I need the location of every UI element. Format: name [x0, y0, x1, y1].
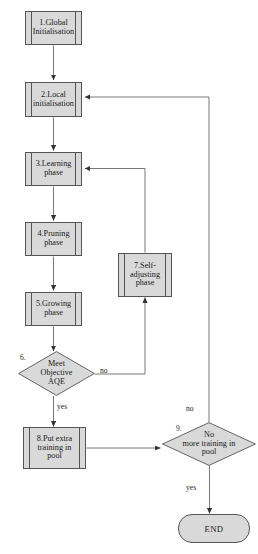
node-label: 8.Put extra training in pool — [31, 435, 78, 462]
node-label: 2.Local initialisation — [27, 91, 80, 109]
node-label: END — [205, 524, 224, 534]
node-learning-phase[interactable]: 3.Learning phase — [25, 152, 82, 186]
node-end[interactable]: END — [178, 514, 250, 543]
node-label: 7.Self- adjusting phase — [124, 262, 166, 289]
node-growing-phase[interactable]: 5.Growing phase — [25, 292, 82, 326]
node-pruning-phase[interactable]: 4.Pruning phase — [25, 222, 82, 256]
edge-6-no-to-7 — [95, 298, 145, 375]
edge-label-9-no: no — [186, 404, 194, 413]
edge-label-6-no: no — [100, 366, 108, 375]
edge-7-to-3 — [85, 169, 145, 253]
node-put-extra-training-in-pool[interactable]: 8.Put extra training in pool — [23, 427, 86, 469]
node-label: 1.Global Initialisation — [27, 19, 80, 37]
process-bar-right — [79, 428, 80, 468]
node-local-initialisation[interactable]: 2.Local initialisation — [25, 82, 82, 117]
edge-label-9-yes: yes — [186, 483, 196, 492]
flowchart-canvas: 1.Global Initialisation 2.Local initiali… — [0, 0, 258, 554]
decision-6-number: 6. — [20, 353, 26, 362]
decision-meet-objective-aqe[interactable]: Meet Objective AQE — [18, 351, 95, 396]
decision-label: Meet Objective AQE — [37, 360, 77, 386]
node-label: 3.Learning phase — [30, 160, 78, 178]
edge-label-6-yes: yes — [57, 402, 67, 411]
node-label: 4.Pruning phase — [31, 230, 75, 248]
node-self-adjusting-phase[interactable]: 7.Self- adjusting phase — [118, 253, 172, 297]
decision-label: No more training in pool — [179, 431, 240, 457]
node-label: 5.Growing phase — [30, 300, 77, 318]
node-global-initialisation[interactable]: 1.Global Initialisation — [25, 11, 82, 45]
